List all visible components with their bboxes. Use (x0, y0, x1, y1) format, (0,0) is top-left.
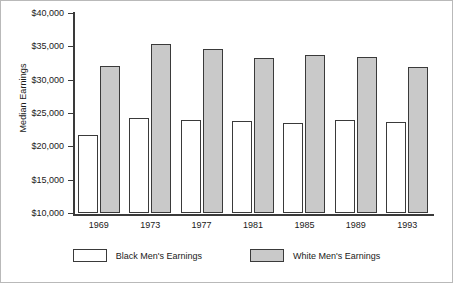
x-axis-tick-label: 1969 (89, 220, 109, 230)
x-axis-line (73, 214, 434, 216)
legend-item-2: White Men's Earnings (250, 249, 380, 262)
bar-1977-series-1 (181, 120, 201, 213)
y-axis-line (73, 12, 75, 216)
plot-area: $40,000$35,000$30,000$25,000$20,000$15,0… (73, 12, 433, 215)
bar-1981-series-1 (232, 121, 252, 213)
bar-1981-series-2 (254, 58, 274, 213)
legend-swatch-icon (73, 249, 107, 262)
x-axis-tick-label: 1973 (140, 220, 160, 230)
y-axis-tick (68, 180, 74, 181)
bar-1985-series-2 (305, 55, 325, 213)
x-axis-tick-label: 1985 (294, 220, 314, 230)
chart-legend: Black Men's EarningsWhite Men's Earnings (1, 249, 452, 262)
y-axis-tick-label: $30,000 (31, 75, 64, 85)
y-axis-tick-label: $35,000 (31, 41, 64, 51)
legend-item-1: Black Men's Earnings (73, 249, 202, 262)
bar-1973-series-2 (151, 44, 171, 213)
x-axis-tick-label: 1981 (243, 220, 263, 230)
bar-1989-series-1 (335, 120, 355, 213)
y-axis-tick-label: $10,000 (31, 208, 64, 218)
x-axis-tick-label: 1989 (346, 220, 366, 230)
bar-1973-series-1 (129, 118, 149, 213)
bar-1989-series-2 (357, 57, 377, 213)
y-axis-title: Median Earnings (18, 38, 28, 158)
bar-1985-series-1 (283, 123, 303, 213)
y-axis-tick-label: $20,000 (31, 141, 64, 151)
y-axis-tick (68, 46, 74, 47)
bar-1993-series-2 (408, 67, 428, 213)
x-axis-tick-label: 1977 (192, 220, 212, 230)
legend-label: Black Men's Earnings (116, 251, 202, 261)
y-axis-tick (68, 213, 74, 214)
y-axis-tick (68, 113, 74, 114)
y-axis-tick-label: $15,000 (31, 175, 64, 185)
bar-1969-series-2 (100, 66, 120, 213)
legend-swatch-icon (250, 249, 284, 262)
y-axis-tick (68, 13, 74, 14)
bar-1977-series-2 (203, 49, 223, 213)
legend-label: White Men's Earnings (293, 251, 380, 261)
y-axis-tick (68, 146, 74, 147)
x-axis-tick-label: 1993 (397, 220, 417, 230)
y-axis-tick (68, 80, 74, 81)
bar-1969-series-1 (78, 135, 98, 213)
bar-1993-series-1 (386, 122, 406, 213)
chart-figure: Median Earnings $40,000$35,000$30,000$25… (0, 0, 453, 283)
y-axis-tick-label: $40,000 (31, 8, 64, 18)
y-axis-tick-label: $25,000 (31, 108, 64, 118)
